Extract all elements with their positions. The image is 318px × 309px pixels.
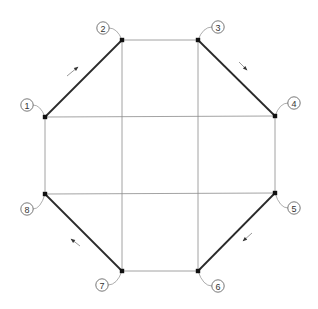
label-text-5: 5 [291, 204, 296, 214]
edge-5-6 [198, 193, 275, 271]
edge-1-4 [45, 116, 275, 117]
arrow-5-6-icon [243, 233, 252, 241]
leader-line-8 [33, 194, 45, 209]
octagon-diagram: 12345678 [0, 0, 318, 309]
label-text-7: 7 [99, 281, 104, 291]
node-2 [120, 38, 124, 42]
node-5 [273, 191, 277, 195]
node-label-5: 5 [288, 202, 300, 214]
edge-1-2 [45, 40, 122, 117]
direction-arrows [67, 62, 252, 246]
node-4 [273, 114, 277, 118]
label-text-8: 8 [24, 205, 29, 215]
node-label-4: 4 [288, 97, 300, 109]
node-8 [43, 192, 47, 196]
label-text-4: 4 [291, 99, 296, 109]
node-label-7: 7 [96, 279, 108, 291]
arrow-3-4-icon [239, 62, 247, 70]
label-leader-lines [33, 27, 288, 286]
label-text-3: 3 [215, 23, 220, 33]
leader-line-6 [198, 271, 212, 286]
node-label-8: 8 [21, 203, 33, 215]
edge-8-5 [45, 193, 275, 194]
grid-lines [45, 40, 275, 271]
arrow-8-7-icon [71, 239, 80, 246]
arrow-1-2-icon [67, 67, 78, 76]
node-3 [196, 38, 200, 42]
node-1 [43, 115, 47, 119]
node-label-3: 3 [212, 21, 224, 33]
edge-7-8 [45, 194, 122, 271]
node-6 [196, 269, 200, 273]
node-label-1: 1 [21, 99, 33, 111]
diagonal-edges [45, 40, 275, 271]
node-label-2: 2 [97, 22, 109, 34]
leader-line-5 [275, 193, 288, 208]
node-7 [120, 269, 124, 273]
vertex-labels: 12345678 [21, 21, 300, 292]
label-text-2: 2 [100, 24, 105, 34]
edge-3-4 [198, 40, 275, 116]
vertex-nodes [43, 38, 277, 273]
node-label-6: 6 [212, 280, 224, 292]
label-text-6: 6 [215, 282, 220, 292]
label-text-1: 1 [24, 101, 29, 111]
